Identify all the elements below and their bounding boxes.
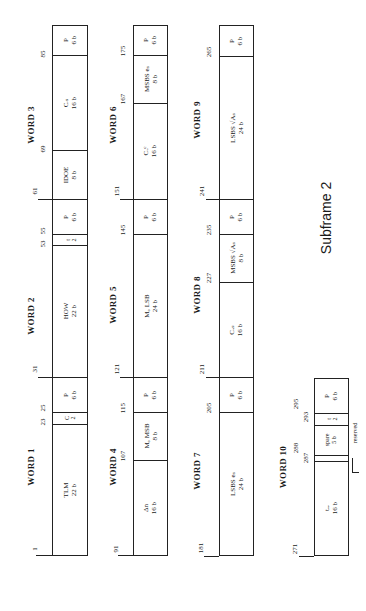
bit-label: 288: [292, 443, 300, 454]
subframe-title: Subframe 2: [318, 182, 334, 254]
field-parity: P6 b: [133, 199, 168, 234]
bit-label: 167: [119, 94, 127, 105]
bit-label: 293: [302, 412, 310, 423]
field-bits: 2: [70, 238, 76, 241]
field-name: P: [229, 390, 237, 399]
bit-label: 23: [39, 419, 47, 426]
field-msbs-es: MSBS eₛ8 b: [133, 55, 168, 103]
field-parity: P6 b: [52, 25, 88, 55]
field-bits: 6 b: [151, 390, 159, 399]
bit-label: 295: [292, 399, 300, 410]
bit-label: 145: [119, 225, 127, 236]
bit-label: 211: [198, 364, 206, 374]
field-name: HOW: [62, 303, 70, 320]
word-2-title: WORD 2: [26, 297, 36, 335]
field-name: P: [62, 212, 70, 221]
bit-label: 1: [31, 547, 39, 551]
bit-label: 205: [205, 403, 213, 414]
field-name: M₀ MSB: [142, 423, 150, 448]
field-bits: 24 b: [237, 113, 245, 143]
field-name: P: [62, 36, 70, 45]
word-3-title: WORD 3: [26, 106, 36, 144]
start-marker: [118, 555, 133, 556]
field-bits: 5 b: [331, 434, 338, 447]
field-spare: spare5 b: [314, 425, 349, 455]
word-5-title: WORD 5: [108, 286, 118, 324]
bit-label: 69: [39, 146, 47, 153]
start-marker: [38, 199, 52, 200]
field-m0-msb: M₀ MSB8 b: [133, 412, 168, 460]
bit-label: 151: [113, 186, 121, 197]
bit-label: 85: [39, 51, 47, 58]
field-lsbs-sqrt-as: LSBS √Aₛ24 b: [219, 56, 254, 199]
field-bits: 6 b: [70, 390, 78, 399]
field-bits: 2: [332, 418, 338, 421]
bit-label: 115: [119, 403, 127, 413]
field-cus: Cᵤₛ16 b: [219, 282, 254, 377]
field-bits: 8 b: [70, 166, 78, 183]
field-bits: 16 b: [332, 502, 340, 514]
word-1-title: WORD 1: [26, 448, 36, 486]
start-marker: [120, 199, 133, 200]
field-name: Cᵣₛ: [62, 96, 70, 108]
field-parity: P6 b: [52, 377, 88, 412]
field-parity: P6 b: [219, 199, 254, 234]
field-bits: 16 b: [70, 96, 78, 108]
field-bits: 6 b: [332, 391, 340, 400]
field-name: LSBS eₛ: [228, 472, 236, 496]
field-name: P: [229, 36, 237, 45]
field-bits: 6 b: [70, 36, 78, 45]
divider: [314, 455, 349, 456]
field-m0-lsb: M₀ LSB24 b: [133, 234, 168, 377]
field-name: MSBS √Aₛ: [229, 242, 237, 274]
field-t: t2: [314, 413, 349, 425]
field-parity: P6 b: [52, 199, 88, 234]
reserved-pointer: [352, 458, 359, 473]
field-idoe: IDOE8 b: [52, 150, 88, 199]
field-bits: 24 b: [150, 294, 158, 317]
field-bits: 6 b: [237, 212, 245, 221]
start-marker: [204, 556, 219, 557]
bit-label: 107: [119, 451, 127, 462]
field-name: IDOE: [62, 166, 70, 183]
field-parity: P6 b: [219, 377, 254, 412]
field-bits: 22 b: [70, 303, 78, 320]
field-name: P: [143, 390, 151, 399]
bit-label: 287: [302, 453, 310, 464]
bit-label: 25: [39, 405, 47, 412]
field-name: t: [64, 238, 70, 241]
field-name: M₀ LSB: [142, 294, 150, 317]
field-parity: P6 b: [219, 25, 254, 56]
bit-label: 53: [39, 241, 47, 248]
field-bits: 8 b: [150, 423, 158, 448]
field-parity: P6 b: [133, 25, 168, 55]
field-crs: Cᵣₛ16 b: [52, 55, 88, 150]
field-t: t2: [52, 234, 88, 245]
bit-label: 181: [197, 543, 205, 554]
bit-label: 121: [113, 364, 121, 375]
field-bits: 6 b: [237, 390, 245, 399]
bit-label: 271: [291, 544, 299, 555]
field-bits: 16 b: [151, 501, 159, 513]
field-msbs-sqrt-as: MSBS √Aₛ8 b: [219, 234, 254, 282]
word-10-title: WORD 10: [278, 446, 288, 488]
field-toe: tₒₑ16 b: [314, 461, 349, 555]
field-c: C2: [52, 412, 88, 424]
field-how: HOW22 b: [52, 245, 88, 377]
field-name: MSBS eₛ: [143, 66, 151, 92]
bit-label: 91: [112, 546, 120, 553]
field-name: LSBS √Aₛ: [229, 113, 237, 143]
bit-label: 61: [31, 188, 39, 195]
word-9-title: WORD 9: [192, 101, 202, 139]
field-cuc: Cᵤᶜ16 b: [133, 103, 168, 199]
field-bits: 16 b: [237, 323, 245, 335]
word-7-title: WORD 7: [192, 452, 202, 490]
word-4-title: WORD 4: [108, 448, 118, 486]
start-marker: [36, 555, 52, 556]
field-parity: P6 b: [133, 377, 168, 412]
bit-label: 31: [31, 366, 39, 373]
start-marker: [299, 556, 314, 557]
field-bits: 6 b: [70, 212, 78, 221]
field-name: P: [324, 391, 332, 400]
field-delta-n: Δn16 b: [133, 460, 168, 555]
